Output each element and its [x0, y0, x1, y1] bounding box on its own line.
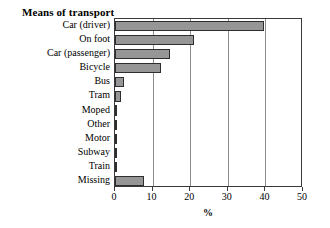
bars-layer: [115, 19, 301, 186]
bar: [115, 21, 264, 31]
bar-row: [115, 49, 301, 59]
category-label: Missing: [0, 175, 110, 185]
bar-chart: Means of transport Car (driver)On footCa…: [0, 0, 330, 228]
bar: [115, 77, 124, 87]
x-tick-label: 20: [184, 191, 194, 202]
category-label: Subway: [0, 147, 110, 157]
x-tick-label: 30: [222, 191, 232, 202]
bar: [115, 105, 117, 115]
category-label: Train: [0, 161, 110, 171]
bar: [115, 120, 117, 130]
bar: [115, 162, 117, 172]
x-tick-label: 10: [147, 191, 157, 202]
category-label: Bicycle: [0, 62, 110, 72]
category-label: Motor: [0, 133, 110, 143]
x-tick-label: 0: [112, 191, 117, 202]
bar-row: [115, 63, 301, 73]
bar-row: [115, 91, 301, 101]
bar: [115, 35, 194, 45]
chart-title: Means of transport: [22, 6, 114, 18]
bar-row: [115, 176, 301, 186]
category-label: Bus: [0, 76, 110, 86]
category-label: Moped: [0, 105, 110, 115]
bar-row: [115, 148, 301, 158]
category-label: Car (driver): [0, 20, 110, 30]
category-label: On foot: [0, 34, 110, 44]
x-axis-tick-labels: 01020304050: [114, 191, 302, 203]
bar-row: [115, 120, 301, 130]
bar: [115, 63, 161, 73]
bar-row: [115, 77, 301, 87]
x-axis-title: %: [114, 207, 302, 218]
plot-area: [114, 18, 302, 187]
bar-row: [115, 134, 301, 144]
bar-row: [115, 21, 301, 31]
bar: [115, 134, 117, 144]
category-label: Tram: [0, 90, 110, 100]
bar-row: [115, 162, 301, 172]
bar: [115, 148, 117, 158]
bar-row: [115, 35, 301, 45]
bar: [115, 49, 170, 59]
bar: [115, 91, 121, 101]
bar-row: [115, 105, 301, 115]
bar: [115, 176, 144, 186]
category-axis-labels: Car (driver)On footCar (passenger)Bicycl…: [0, 18, 110, 187]
x-tick-label: 50: [297, 191, 307, 202]
category-label: Other: [0, 119, 110, 129]
x-tick-label: 40: [259, 191, 269, 202]
category-label: Car (passenger): [0, 48, 110, 58]
